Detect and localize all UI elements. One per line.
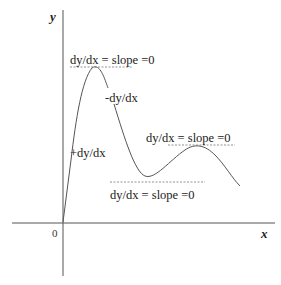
increasing-label: +dy/dx — [70, 146, 106, 160]
min-label: dy/dx = slope =0 — [110, 188, 195, 202]
decreasing-label: -dy/dx — [105, 91, 138, 105]
max2-label: dy/dx = slope =0 — [146, 131, 231, 145]
max1-label: dy/dx = slope =0 — [70, 53, 155, 67]
y-axis-label: y — [48, 9, 56, 24]
x-axis-label: x — [260, 226, 268, 241]
slope-diagram: y x 0 dy/dx = slope =0 -dy/dx +dy/dx dy/… — [0, 0, 281, 285]
origin-label: 0 — [52, 227, 58, 239]
